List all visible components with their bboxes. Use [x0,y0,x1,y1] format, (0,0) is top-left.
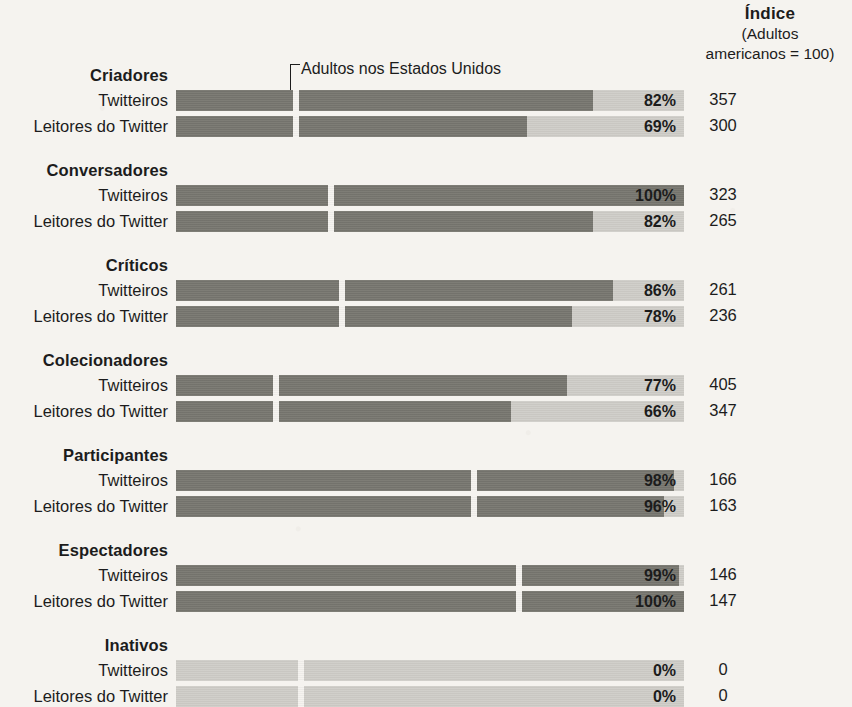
bar-value-label: 82% [600,212,676,231]
reference-marker [273,401,279,422]
row-label: Twitteiros [0,566,168,585]
index-value: 261 [690,279,756,300]
index-value: 357 [690,89,756,110]
index-value: 147 [690,590,756,611]
reference-marker [471,470,477,491]
bar-value-label: 100% [600,186,676,205]
group-title: Colecionadores [0,351,168,370]
bar-value-label: 66% [600,402,676,421]
row-label: Leitores do Twitter [0,687,168,706]
bar-value-label: 96% [600,497,676,516]
row-label: Twitteiros [0,186,168,205]
bar-value-label: 69% [600,117,676,136]
group-title: Conversadores [0,161,168,180]
group-title: Críticos [0,256,168,275]
row-label: Twitteiros [0,281,168,300]
reference-marker [328,211,334,232]
reference-marker [298,660,304,681]
group-title: Criadores [0,66,168,85]
index-column-header: Índice (Adultos americanos = 100) [690,4,850,64]
row-label: Twitteiros [0,661,168,680]
index-value: 236 [690,305,756,326]
chart-row: Twitteiros86%261 [0,280,852,301]
index-value: 163 [690,495,756,516]
index-value: 323 [690,184,756,205]
index-subtitle-line2: americanos = 100) [690,44,850,64]
bar-fill [176,116,527,137]
reference-marker [339,306,345,327]
chart-row: Leitores do Twitter69%300 [0,116,852,137]
chart-row: Leitores do Twitter100%147 [0,591,852,612]
bar-fill [176,211,593,232]
reference-marker [328,185,334,206]
index-title: Índice [690,4,850,24]
reference-marker [516,565,522,586]
row-label: Leitores do Twitter [0,307,168,326]
chart-row: Twitteiros99%146 [0,565,852,586]
bar-value-label: 78% [600,307,676,326]
row-label: Leitores do Twitter [0,592,168,611]
index-value: 0 [690,659,756,680]
chart-row: Leitores do Twitter66%347 [0,401,852,422]
row-label: Twitteiros [0,376,168,395]
bar-value-label: 100% [600,592,676,611]
chart-row: Leitores do Twitter96%163 [0,496,852,517]
group-title: Inativos [0,636,168,655]
bar-fill [176,375,567,396]
index-value: 0 [690,685,756,706]
chart-row: Leitores do Twitter82%265 [0,211,852,232]
chart-row: Twitteiros0%0 [0,660,852,681]
reference-marker [516,591,522,612]
bar-value-label: 99% [600,566,676,585]
chart-row: Twitteiros100%323 [0,185,852,206]
row-label: Leitores do Twitter [0,212,168,231]
chart-row: Twitteiros82%357 [0,90,852,111]
group-title: Espectadores [0,541,168,560]
callout-bracket-icon [290,64,300,93]
bar-value-label: 86% [600,281,676,300]
bar-fill [176,401,511,422]
chart-row: Leitores do Twitter78%236 [0,306,852,327]
bar-value-label: 82% [600,91,676,110]
reference-marker [339,280,345,301]
row-label: Leitores do Twitter [0,497,168,516]
reference-marker [293,90,299,111]
group-title: Participantes [0,446,168,465]
bar-fill [176,90,593,111]
reference-marker [298,686,304,707]
reference-marker [471,496,477,517]
row-label: Leitores do Twitter [0,117,168,136]
bar-fill [176,280,613,301]
bar-fill [176,306,572,327]
row-label: Leitores do Twitter [0,402,168,421]
row-label: Twitteiros [0,91,168,110]
index-value: 265 [690,210,756,231]
bar-value-label: 98% [600,471,676,490]
bar-value-label: 77% [600,376,676,395]
chart-row: Leitores do Twitter0%0 [0,686,852,707]
row-label: Twitteiros [0,471,168,490]
callout-label: Adultos nos Estados Unidos [301,60,501,78]
bar-value-label: 0% [600,687,676,706]
index-value: 405 [690,374,756,395]
index-value: 347 [690,400,756,421]
index-value: 166 [690,469,756,490]
index-subtitle-line1: (Adultos [690,24,850,44]
reference-marker [273,375,279,396]
reference-marker [293,116,299,137]
bar-value-label: 0% [600,661,676,680]
index-value: 146 [690,564,756,585]
chart-row: Twitteiros77%405 [0,375,852,396]
bar-fill [176,496,664,517]
chart-row: Twitteiros98%166 [0,470,852,491]
index-value: 300 [690,115,756,136]
